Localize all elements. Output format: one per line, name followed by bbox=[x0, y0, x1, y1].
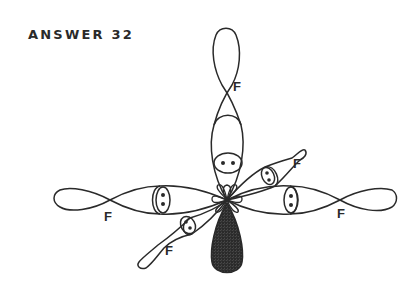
electron-icon bbox=[161, 202, 165, 206]
ligand-label-left: F bbox=[104, 209, 112, 224]
electron-icon bbox=[184, 220, 188, 224]
bond-left bbox=[54, 186, 227, 214]
electron-icon bbox=[267, 178, 271, 182]
ligand-label-lower-left: F bbox=[165, 243, 173, 258]
electron-pair-ellipse bbox=[177, 214, 198, 237]
electron-icon bbox=[231, 161, 235, 165]
electron-icon bbox=[289, 194, 293, 198]
electron-icon bbox=[289, 203, 293, 207]
electron-icon bbox=[221, 161, 225, 165]
orbital-diagram: F F F F F bbox=[0, 0, 419, 295]
ligand-label-upper-right: F bbox=[293, 156, 301, 171]
electron-icon bbox=[188, 226, 192, 230]
electron-pair-ellipse bbox=[214, 153, 242, 173]
bond-top bbox=[211, 28, 243, 200]
ligand-label-right: F bbox=[337, 206, 345, 221]
ligand-label-top: F bbox=[233, 79, 241, 94]
electron-pair-ellipse bbox=[156, 187, 170, 213]
electron-icon bbox=[265, 171, 269, 175]
bond-right bbox=[227, 186, 397, 214]
electron-pair-ellipse bbox=[284, 187, 298, 213]
electron-icon bbox=[161, 193, 165, 197]
